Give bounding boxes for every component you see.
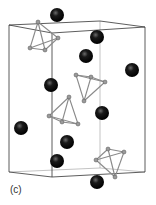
- large-atom: [95, 106, 109, 120]
- panel-label: (c): [10, 184, 22, 195]
- small-atom: [74, 73, 78, 77]
- bond: [76, 75, 84, 101]
- small-atom: [103, 80, 107, 84]
- large-atom: [50, 154, 64, 168]
- bond: [69, 97, 78, 124]
- tetrahedron-2: [74, 73, 107, 103]
- small-atom: [94, 158, 98, 162]
- small-atom: [89, 75, 93, 79]
- small-atom: [122, 150, 126, 154]
- cell-edge-front-bottom-left: [9, 172, 52, 177]
- large-atom: [79, 49, 93, 63]
- bond: [30, 48, 45, 50]
- large-atom: [14, 121, 28, 135]
- large-atom: [125, 63, 139, 77]
- bond: [30, 22, 38, 48]
- crystal-structure-diagram: [0, 0, 156, 205]
- small-atom: [60, 120, 64, 124]
- small-atom: [67, 95, 71, 99]
- large-atom: [90, 175, 104, 189]
- small-atom: [82, 99, 86, 103]
- tetrahedron-1: [28, 20, 60, 52]
- cell-edge-back-bottom-left: [9, 168, 100, 172]
- small-atom: [47, 114, 51, 118]
- large-atom: [44, 78, 58, 92]
- large-atom: [50, 8, 64, 22]
- unit-cell-back-edges: [9, 21, 145, 172]
- cell-top-face: [9, 21, 145, 33]
- small-atom: [56, 36, 60, 40]
- small-atom: [76, 122, 80, 126]
- small-atom: [106, 147, 110, 151]
- small-atom: [36, 20, 40, 24]
- large-atom: [90, 30, 104, 44]
- bond: [108, 149, 115, 177]
- small-atom: [113, 175, 117, 179]
- bond: [108, 149, 124, 152]
- small-atom: [43, 48, 47, 52]
- small-atom: [28, 46, 32, 50]
- large-atom: [60, 135, 74, 149]
